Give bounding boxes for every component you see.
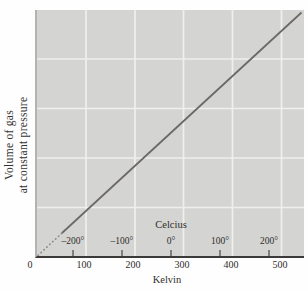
celsius-tick-label: 100° bbox=[211, 236, 229, 246]
charles-law-figure: Volume of gas at constant pressure V bbox=[0, 0, 308, 290]
celsius-tick-label: 0° bbox=[167, 236, 176, 246]
plot-area: Celcius –200° –100° 0° 100° 200° bbox=[35, 10, 304, 258]
kelvin-tick-label: 500 bbox=[273, 259, 288, 270]
celsius-axis-title: Celcius bbox=[155, 219, 187, 230]
celsius-tick-label: –200° bbox=[62, 236, 85, 246]
y-axis-label-line1: Volume of gas bbox=[3, 60, 17, 230]
kelvin-tick-label: 200 bbox=[126, 259, 141, 270]
celsius-tick-label: –100° bbox=[111, 236, 134, 246]
kelvin-axis-title: Kelvin bbox=[153, 274, 182, 285]
y-axis-label-line2: at constant pressure bbox=[17, 60, 31, 230]
kelvin-tick-label: 100 bbox=[77, 259, 92, 270]
kelvin-tick-label: 300 bbox=[175, 259, 190, 270]
y-axis-label: Volume of gas at constant pressure bbox=[3, 60, 31, 230]
kelvin-tick-label: 400 bbox=[224, 259, 239, 270]
celsius-tick-marks bbox=[73, 250, 269, 256]
extrapolation-dotted-line bbox=[38, 233, 62, 256]
volume-temperature-line bbox=[62, 13, 302, 234]
kelvin-tick-label: 0 bbox=[28, 259, 33, 270]
celsius-tick-label: 200° bbox=[260, 236, 278, 246]
